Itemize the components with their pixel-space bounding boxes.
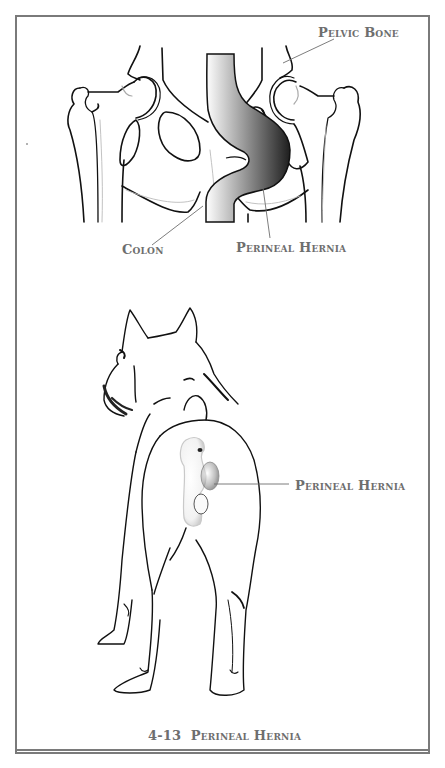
label-colon: Colon xyxy=(122,242,164,257)
illustration xyxy=(0,0,445,768)
figure-title: Perineal Hernia xyxy=(191,728,301,743)
figure-number: 4-13 xyxy=(148,728,181,743)
label-perineal-hernia-top: Perineal Hernia xyxy=(236,240,346,255)
label-perineal-hernia-bottom: Perineal Hernia xyxy=(295,478,405,493)
label-pelvic-bone: Pelvic Bone xyxy=(318,25,399,40)
dog-illustration xyxy=(98,308,260,695)
right-femur xyxy=(294,86,360,222)
left-femur xyxy=(68,82,134,222)
colon xyxy=(206,54,290,222)
figure-caption: 4-13 Perineal Hernia xyxy=(148,728,301,743)
hernia-swelling xyxy=(180,438,219,526)
